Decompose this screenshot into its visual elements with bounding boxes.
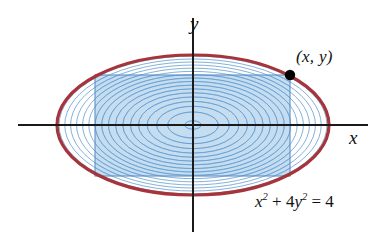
point-marker (285, 70, 295, 80)
x-axis-label: x (349, 128, 357, 147)
y-axis-label: y (190, 14, 198, 33)
equation-y-base: y (294, 192, 302, 211)
ellipse-figure: y x (x, y) x2 + 4y2 = 4 (0, 0, 382, 244)
equation-x-base: x (255, 192, 263, 211)
equation-middle: + 4 (268, 192, 295, 211)
point-label: (x, y) (296, 48, 333, 65)
equation-tail: = 4 (307, 192, 334, 211)
ellipse-equation-label: x2 + 4y2 = 4 (255, 192, 334, 210)
